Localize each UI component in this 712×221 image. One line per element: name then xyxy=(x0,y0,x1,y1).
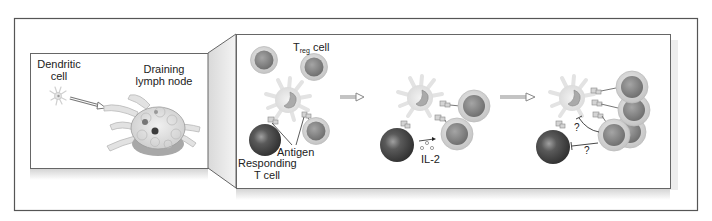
treg-cell-label: Treg cell xyxy=(293,41,329,57)
zoom-connector xyxy=(208,34,236,188)
label-subscript: reg xyxy=(300,47,310,54)
zoom-panel xyxy=(237,35,671,189)
question-mark-label: ? xyxy=(584,145,590,157)
label-text: ? xyxy=(584,145,590,156)
label-text: T xyxy=(293,41,300,53)
label-line: Dendritic xyxy=(37,58,81,70)
label-text: IL-2 xyxy=(421,153,440,165)
label-line: Draining xyxy=(134,63,194,75)
dendritic-cell-label: Dendritic cell xyxy=(37,58,81,82)
label-text: cell xyxy=(310,41,330,53)
label-line: cell xyxy=(37,70,81,82)
label-line: Responding xyxy=(238,157,296,169)
treg-cell-icon xyxy=(251,47,278,74)
il2-label: IL-2 xyxy=(421,153,440,165)
label-text: ? xyxy=(574,122,580,133)
figure-stage: Dendritic cell Draining lymph node Treg … xyxy=(0,0,712,221)
responding-t-cell-icon xyxy=(380,128,414,162)
treg-cell-icon xyxy=(303,118,330,145)
label-line: lymph node xyxy=(134,75,194,87)
treg-cell-icon xyxy=(301,54,328,81)
treg-cell-icon xyxy=(441,118,473,150)
figure-canvas xyxy=(0,0,712,221)
lymph-node-label: Draining lymph node xyxy=(134,63,194,87)
question-mark-label: ? xyxy=(574,122,580,134)
responding-t-cell-icon xyxy=(536,130,570,164)
responding-t-cell-label: Responding T cell xyxy=(238,157,296,181)
label-line: T cell xyxy=(238,169,296,181)
